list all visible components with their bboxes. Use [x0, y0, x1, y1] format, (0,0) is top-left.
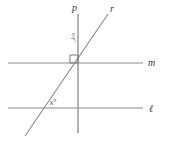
line-label-l: ℓ	[149, 103, 153, 114]
line-label-r: r	[110, 3, 114, 14]
geometry-figure: p r m ℓ y° x°	[0, 0, 169, 142]
line-label-p: p	[71, 2, 77, 13]
geometry-canvas: p r m ℓ y° x°	[0, 0, 169, 142]
line-label-m: m	[148, 57, 155, 68]
angle-label-x: x°	[48, 97, 58, 107]
line-r	[25, 14, 108, 136]
